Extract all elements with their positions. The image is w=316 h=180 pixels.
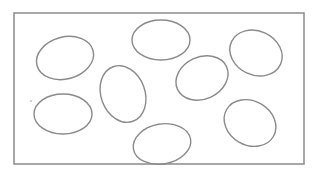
outer-rectangle [14,13,304,164]
stray-dot [30,100,31,101]
ellipse-group [32,20,290,169]
ellipse-4 [92,59,153,129]
ellipse-2 [132,20,190,60]
ellipse-1 [32,30,99,86]
ellipse-7 [130,119,194,168]
ellipse-8 [216,90,285,155]
ellipse-3 [222,22,290,85]
ellipse-5 [169,48,236,109]
diagram-canvas [0,0,316,180]
ellipse-6 [34,94,92,134]
